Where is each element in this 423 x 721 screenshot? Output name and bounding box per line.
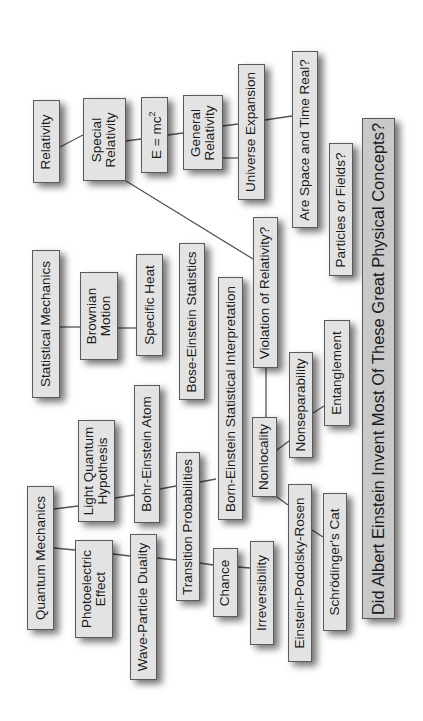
node-label: Nonseparability xyxy=(294,358,308,451)
label-line-2: Hypothesis xyxy=(96,438,111,505)
node-label: Are Space and Time Real? xyxy=(298,59,312,220)
label-line-2: Relativity xyxy=(104,112,119,167)
node-label: Statistical Mechanics xyxy=(39,261,53,387)
node-label: Wave-Particle Duality xyxy=(137,543,151,672)
node-label: Einstein-Podolsky-Rosen xyxy=(293,498,307,649)
diagram-title-box: Did Albert Einstein Invent Most Of These… xyxy=(362,118,395,619)
formula-base: E = mc xyxy=(149,116,164,158)
node-label: Particles or Fields? xyxy=(334,152,348,267)
node-label: Irreversibility xyxy=(255,555,269,631)
node-bose-einstein-statistics: Bose-Einstein Statistics xyxy=(179,243,205,400)
concept-map: Relativity SpecialRelativity E = mc2 Gen… xyxy=(0,0,423,721)
node-schrodingers-cat: Schrödinger's Cat xyxy=(323,493,347,631)
label-line-1: Brownian xyxy=(84,288,99,344)
node-space-time-real: Are Space and Time Real? xyxy=(292,51,318,228)
node-label: Specific Heat xyxy=(143,265,157,345)
label-line-2: Motion xyxy=(98,296,113,337)
node-statistical-mechanics: Statistical Mechanics xyxy=(32,250,60,398)
node-particles-or-fields: Particles or Fields? xyxy=(329,143,353,276)
node-specific-heat: Specific Heat xyxy=(136,254,163,356)
node-einstein-podolsky-rosen: Einstein-Podolsky-Rosen xyxy=(288,484,312,662)
node-nonlocality: Nonlocality xyxy=(252,417,277,497)
node-label: BrownianMotion xyxy=(85,288,113,344)
node-label: Born-Einstein Statistical Interpretation xyxy=(224,286,238,512)
node-irreversibility: Irreversibility xyxy=(250,541,274,645)
node-label: Nonlocality xyxy=(258,424,272,490)
label-line-2: Relativity xyxy=(202,105,217,160)
node-wave-particle-duality: Wave-Particle Duality xyxy=(130,534,157,680)
node-light-quantum-hypothesis: Light QuantumHypothesis xyxy=(78,420,115,522)
node-label: Entanglement xyxy=(330,331,344,414)
node-relativity: Relativity xyxy=(33,100,60,183)
diagram-title: Did Albert Einstein Invent Most Of These… xyxy=(372,122,386,614)
node-label: Schrödinger's Cat xyxy=(328,509,342,616)
node-special-relativity: SpecialRelativity xyxy=(83,98,126,181)
node-label: E = mc2 xyxy=(145,111,164,158)
node-general-relativity: GeneralRelativity xyxy=(183,95,223,170)
node-universe-expansion: Universe Expansion xyxy=(238,64,265,200)
label-line-1: General xyxy=(188,108,203,156)
label-line-1: Photoelectric xyxy=(79,550,94,628)
node-label: Quantum Mechanics xyxy=(34,496,48,620)
node-label: Universe Expansion xyxy=(245,72,259,192)
node-entanglement: Entanglement xyxy=(324,320,350,426)
node-violation-of-relativity: Violation of Relativity? xyxy=(253,217,278,368)
node-chance: Chance xyxy=(213,548,238,617)
node-bohr-einstein-atom: Bohr-Einstein Atom xyxy=(134,385,160,523)
node-quantum-mechanics: Quantum Mechanics xyxy=(27,486,54,630)
node-transition-probabilities: Transition Probabilities xyxy=(176,452,200,601)
node-label: SpecialRelativity xyxy=(91,112,119,167)
node-label: Chance xyxy=(219,559,233,606)
node-nonseparability: Nonseparability xyxy=(289,352,313,458)
node-label: Light QuantumHypothesis xyxy=(83,427,111,516)
node-label: Bohr-Einstein Atom xyxy=(140,396,154,512)
node-born-einstein-interpretation: Born-Einstein Statistical Interpretation xyxy=(218,277,243,520)
node-e-equals-mc2: E = mc2 xyxy=(141,97,168,173)
label-line-1: Light Quantum xyxy=(82,427,97,516)
node-label: PhotoelectricEffect xyxy=(80,550,108,628)
node-label: GeneralRelativity xyxy=(189,105,217,160)
node-label: Violation of Relativity? xyxy=(259,226,273,359)
label-line-1: Special xyxy=(90,117,105,161)
node-photoelectric-effect: PhotoelectricEffect xyxy=(75,540,113,638)
node-brownian-motion: BrownianMotion xyxy=(80,272,118,360)
node-label: Relativity xyxy=(40,114,54,169)
formula-exponent: 2 xyxy=(147,111,157,116)
label-line-2: Effect xyxy=(93,572,108,606)
node-label: Transition Probabilities xyxy=(181,458,195,594)
node-label: Bose-Einstein Statistics xyxy=(185,251,199,392)
